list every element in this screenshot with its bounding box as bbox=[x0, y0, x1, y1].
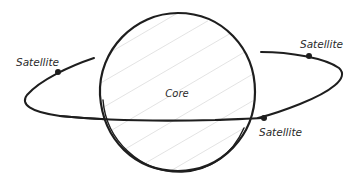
core-label: Core bbox=[165, 88, 188, 99]
orbit-right-arc bbox=[258, 52, 342, 118]
satellite-upper-left: Satellite bbox=[16, 56, 61, 75]
orbit-diagram: Core Satellite Satellite Satellite bbox=[0, 0, 363, 180]
satellite-dot bbox=[261, 115, 267, 121]
satellite-label: Satellite bbox=[259, 126, 302, 138]
satellite-dot bbox=[55, 69, 61, 75]
satellite-front-right: Satellite bbox=[259, 115, 302, 138]
core-planet: Core bbox=[80, 0, 275, 180]
satellite-label: Satellite bbox=[300, 38, 343, 50]
satellite-upper-right: Satellite bbox=[300, 38, 343, 59]
satellite-label: Satellite bbox=[16, 56, 59, 68]
satellite-dot bbox=[306, 53, 312, 59]
